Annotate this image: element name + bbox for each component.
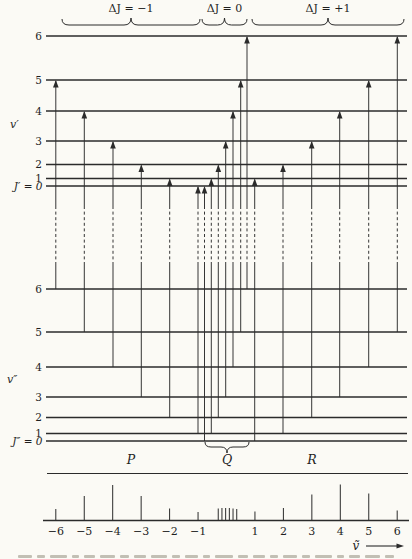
axis-tick-label-1: −5 xyxy=(76,525,92,538)
p-branch-label: P xyxy=(126,452,136,467)
arrowhead xyxy=(309,141,315,149)
arrowhead xyxy=(395,36,401,44)
transition-p2 xyxy=(167,179,173,418)
geometry-layer: 112233445566−6−5−4−3−2−1123456 xyxy=(18,18,409,558)
upper-state-vibrational-label: v′ xyxy=(10,118,19,131)
lower-level-number-j6: 6 xyxy=(35,283,42,295)
upper-level-number-j6: 6 xyxy=(35,30,42,42)
arrowhead xyxy=(195,186,201,194)
axis-tick-label-9: 4 xyxy=(337,525,344,538)
transition-p5 xyxy=(82,111,88,332)
arrowhead xyxy=(244,36,250,44)
delta-j-zero-label: ΔJ = 0 xyxy=(207,2,243,15)
wavenumber-axis-label: ṽ xyxy=(353,539,360,553)
lower-level-number-j3: 3 xyxy=(35,391,42,403)
transition-r3 xyxy=(337,111,343,397)
transition-q1 xyxy=(209,179,215,434)
brace-branch-group-1 xyxy=(202,18,247,25)
upper-j-zero-label: J′ = 0 xyxy=(12,180,43,192)
upper-level-number-j2: 2 xyxy=(35,158,42,170)
transition-q5 xyxy=(238,80,244,332)
transition-p4 xyxy=(110,141,116,367)
delta-j-plus-1-label: ΔJ = +1 xyxy=(306,2,351,15)
transition-r2 xyxy=(309,141,315,418)
arrowhead xyxy=(209,179,215,187)
arrowhead xyxy=(216,165,222,173)
arrowhead xyxy=(238,80,244,88)
arrowhead xyxy=(202,186,208,194)
transition-r4 xyxy=(366,80,372,367)
axis-tick-label-10: 5 xyxy=(365,525,372,538)
arrowhead xyxy=(223,141,229,149)
cropped-caption-remnant xyxy=(18,555,394,558)
brace-branch-group-2 xyxy=(252,18,404,25)
arrowhead xyxy=(110,141,116,149)
upper-level-number-j5: 5 xyxy=(35,74,42,86)
axis-tick-label-8: 3 xyxy=(308,525,315,538)
q-branch-label: Q xyxy=(222,452,232,467)
axis-tick-label-6: 1 xyxy=(251,525,258,538)
arrowhead xyxy=(139,165,145,173)
arrowhead xyxy=(337,111,343,119)
arrowhead xyxy=(82,111,88,119)
delta-j-minus-1-label: ΔJ = −1 xyxy=(109,2,154,15)
arrowhead xyxy=(252,179,258,187)
arrowhead xyxy=(397,543,405,548)
transition-q6 xyxy=(244,36,250,289)
upper-level-number-j3: 3 xyxy=(35,135,42,147)
axis-tick-label-11: 6 xyxy=(394,525,401,538)
transition-r1 xyxy=(280,165,286,434)
axis-tick-label-5: −1 xyxy=(190,525,206,538)
transition-p3 xyxy=(139,165,145,398)
r-branch-label: R xyxy=(306,452,316,467)
arrowhead xyxy=(230,111,236,119)
lower-level-number-j2: 2 xyxy=(35,411,42,423)
transition-q0 xyxy=(202,186,208,441)
nu-direction-arrow xyxy=(366,543,404,548)
transition-q2 xyxy=(216,165,222,418)
upper-level-number-j4: 4 xyxy=(35,105,42,117)
axis-tick-label-3: −3 xyxy=(133,525,149,538)
lower-state-vibrational-label: v″ xyxy=(7,373,18,386)
axis-tick-label-7: 2 xyxy=(280,525,287,538)
brace-branch-group-0 xyxy=(62,18,200,25)
axis-tick-labels: −6−5−4−3−2−1123456 xyxy=(48,525,401,538)
arrowhead xyxy=(53,80,59,88)
arrowhead xyxy=(167,179,173,187)
transition-q3 xyxy=(223,141,229,397)
lower-level-number-j4: 4 xyxy=(35,361,42,373)
axis-tick-label-2: −4 xyxy=(105,525,121,538)
rovibrational-transition-diagram: 112233445566−6−5−4−3−2−1123456 ΔJ = −1 Δ… xyxy=(0,0,412,559)
axis-tick-label-4: −2 xyxy=(161,525,177,538)
arrowhead xyxy=(280,165,286,173)
lower-level-number-j5: 5 xyxy=(35,326,42,338)
transition-q4 xyxy=(230,111,236,367)
transition-r0 xyxy=(252,179,258,442)
arrowhead xyxy=(366,80,372,88)
spectrum-lines xyxy=(56,485,397,521)
lower-j-zero-label: J″ = 0 xyxy=(10,435,43,447)
axis-tick-label-0: −6 xyxy=(48,525,64,538)
